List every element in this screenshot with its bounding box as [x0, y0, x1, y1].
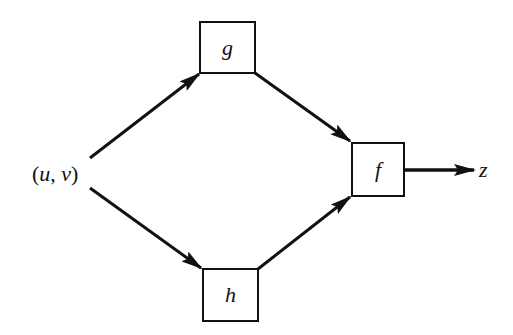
node-g: g — [199, 21, 256, 74]
output-label: z — [479, 159, 488, 181]
output-var-z: z — [479, 157, 488, 182]
input-var-u: u — [39, 161, 50, 186]
edge-g-to-f — [255, 73, 350, 141]
edge-input-to-h — [90, 188, 201, 268]
node-h: h — [202, 268, 259, 322]
node-g-label: g — [222, 37, 233, 59]
edge-input-to-g — [90, 74, 199, 158]
edge-h-to-f — [258, 197, 350, 269]
input-paren-close: ) — [71, 161, 78, 186]
diagram-canvas: (u, v) g h f z — [0, 0, 513, 335]
node-h-label: h — [225, 284, 236, 306]
input-label: (u, v) — [32, 163, 78, 185]
input-separator: , — [50, 161, 61, 186]
node-f: f — [351, 142, 405, 197]
node-f-label: f — [375, 159, 381, 181]
input-var-v: v — [61, 161, 71, 186]
